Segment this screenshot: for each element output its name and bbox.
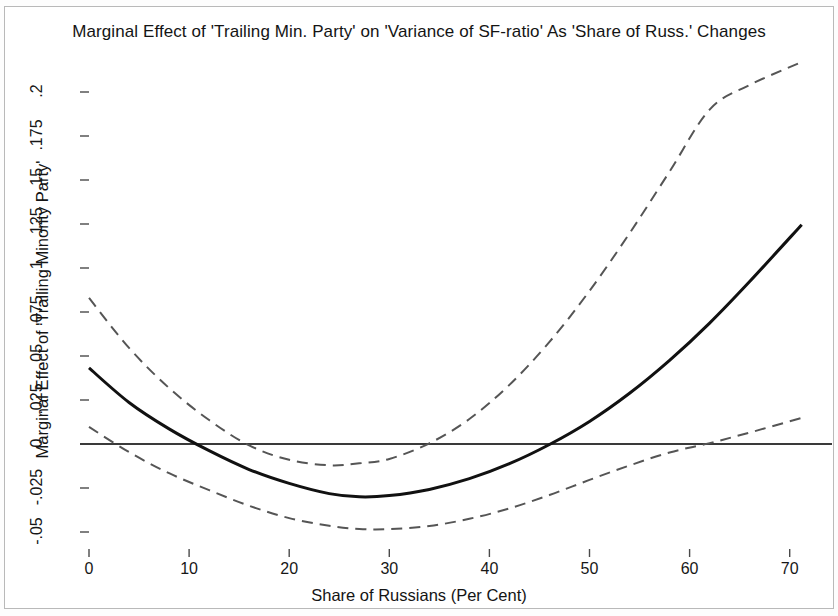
series-lines [89,62,802,529]
x-tick-label: 50 [581,560,599,578]
x-tick-label: 20 [280,560,298,578]
chart-page: Marginal Effect of 'Trailing Min. Party'… [0,0,838,616]
x-tick-label: 10 [180,560,198,578]
x-tick-label: 70 [781,560,799,578]
x-tick-label: 60 [681,560,699,578]
marginal-effect-plot [0,0,838,616]
x-tick-label: 0 [85,560,94,578]
x-tick-label: 30 [380,560,398,578]
y-axis-title: Marginal Effect of 'Trailing Minority Pa… [33,100,52,520]
x-axis-title: Share of Russians (Per Cent) [0,586,838,605]
series-line [89,62,802,465]
x-tick-label: 40 [480,560,498,578]
series-line [89,225,802,497]
